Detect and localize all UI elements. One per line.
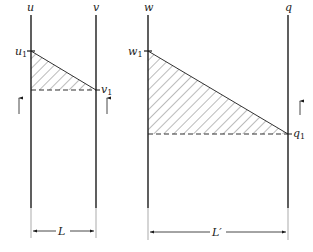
point-v1-label: v1 (101, 83, 112, 97)
point-w1-label: w1 (128, 45, 143, 59)
width-label-L-prime: L′ (211, 226, 222, 239)
left-panel: u v u1 v1 L (15, 1, 112, 238)
line-w-label: w (144, 1, 154, 14)
width-label-L: L (57, 225, 65, 238)
diagram-canvas: u v u1 v1 L w q w1 q1 (0, 0, 313, 252)
line-v-label: v (93, 1, 100, 14)
line-u-label: u (27, 1, 34, 14)
line-q-label: q (285, 1, 292, 14)
right-panel: w q w1 q1 L′ (128, 1, 305, 240)
point-q1-label: q1 (293, 127, 305, 141)
point-u1-label: u1 (15, 45, 27, 59)
